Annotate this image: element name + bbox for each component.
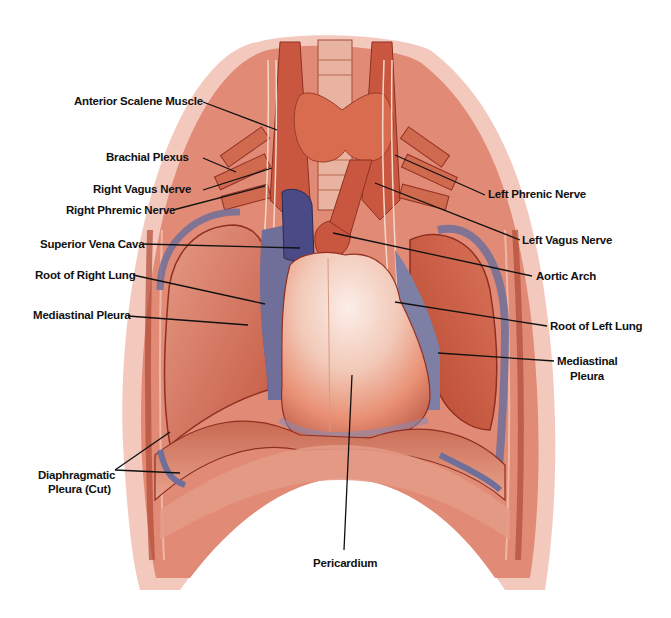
superior-vena-cava-shape [282,189,314,261]
label-left-phrenic-nerve: Left Phrenic Nerve [488,188,586,201]
label-mediastinal-pleura-right: Mediastinal Pleura [33,309,130,322]
label-right-phremic-nerve: Right Phremic Nerve [66,204,175,217]
label-pericardium: Pericardium [313,557,377,570]
label-diaphragmatic-pleura-line1: Diaphragmatic [38,469,115,482]
label-mediastinal-pleura-left-line2: Pleura [570,370,604,383]
label-right-vagus-nerve: Right Vagus Nerve [93,183,191,196]
label-diaphragmatic-pleura-line2: Pleura (Cut) [48,483,111,496]
label-brachial-plexus: Brachial Plexus [106,151,189,164]
label-left-vagus-nerve: Left Vagus Nerve [522,234,612,247]
label-superior-vena-cava: Superior Vena Cava [40,238,144,251]
label-root-of-right-lung: Root of Right Lung [35,269,136,282]
label-aortic-arch: Aortic Arch [536,270,596,283]
label-anterior-scalene-muscle: Anterior Scalene Muscle [74,95,203,108]
label-mediastinal-pleura-left-line1: Mediastinal [557,355,617,368]
label-root-of-left-lung: Root of Left Lung [550,320,642,333]
